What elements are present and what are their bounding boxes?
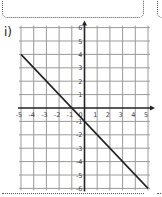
y-tick-label: -3 (76, 145, 82, 153)
x-tick-label: -3 (41, 111, 47, 119)
x-tick-label: -4 (28, 111, 34, 119)
x-tick-label: 4 (131, 111, 135, 119)
x-tick-label: 3 (119, 111, 123, 119)
x-tick-label: 2 (106, 111, 110, 119)
y-tick-label: 2 (78, 78, 82, 86)
x-tick-label: -2 (54, 111, 60, 119)
y-tick-label: -6 (76, 185, 82, 193)
y-tick-label: 5 (78, 38, 82, 46)
x-tick-label: 5 (144, 111, 148, 119)
x-tick-label: -5 (16, 111, 22, 119)
y-tick-label: 4 (78, 51, 82, 59)
y-axis-arrow-icon (82, 21, 87, 26)
x-axis-arrow-icon (150, 106, 155, 111)
y-tick-label: -2 (76, 131, 82, 139)
coordinate-graph: -5-4-3-2-1012345654321-1-2-3-4-5-6 (0, 0, 162, 197)
y-tick-label: -4 (76, 158, 82, 166)
y-tick-label: 6 (78, 24, 82, 32)
y-tick-label: 1 (78, 91, 82, 99)
y-tick-label: -5 (76, 172, 82, 180)
x-tick-label: 1 (93, 111, 97, 119)
x-tick-label: -1 (67, 111, 73, 119)
y-tick-label: 3 (78, 64, 82, 72)
